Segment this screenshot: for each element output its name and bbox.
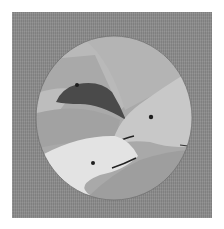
gray-dolphin-eye — [149, 115, 153, 119]
white-dolphin-eye — [91, 161, 95, 165]
dark-dolphin-eye — [75, 83, 79, 87]
porthole-circle — [30, 30, 200, 210]
porthole-illustration — [0, 0, 224, 229]
